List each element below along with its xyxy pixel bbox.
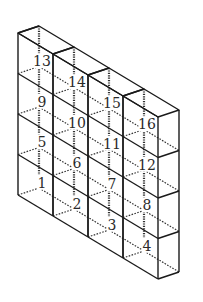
front-horizontal-edge: [53, 135, 88, 156]
cube-number-label: 14: [68, 74, 86, 90]
cube-number-label: 2: [73, 196, 82, 212]
front-horizontal-edge: [88, 75, 123, 96]
cube-number-label: 3: [108, 217, 117, 233]
hidden-horizontal-edge: [144, 130, 179, 151]
cube-number-label: 4: [143, 238, 152, 254]
right-row-depth-edge: [158, 191, 179, 198]
front-horizontal-edge: [18, 114, 53, 135]
front-horizontal-edge: [88, 197, 123, 218]
cube-number-label: 10: [68, 115, 86, 131]
hidden-horizontal-edge: [109, 230, 144, 251]
cube-number-label: 5: [38, 134, 47, 150]
front-horizontal-edge: [123, 258, 158, 279]
front-horizontal-edge: [53, 54, 88, 75]
cube-number-label: 16: [138, 116, 156, 132]
hidden-depth-edge: [88, 230, 109, 237]
hidden-depth-edge: [53, 169, 74, 176]
cube-number-label: 6: [73, 155, 82, 171]
hidden-depth-edge: [18, 107, 39, 114]
front-horizontal-edge: [53, 176, 88, 197]
front-horizontal-edge: [88, 237, 123, 258]
right-row-depth-edge: [158, 151, 179, 158]
cube-wall-diagram: 13141516910111256781234: [0, 0, 203, 302]
cube-wall-svg: 13141516910111256781234: [0, 0, 203, 302]
front-horizontal-edge: [18, 74, 53, 95]
front-horizontal-edge: [53, 216, 88, 237]
front-horizontal-edge: [88, 156, 123, 177]
cube-number-label: 12: [138, 157, 156, 173]
hidden-depth-edge: [53, 209, 74, 216]
front-horizontal-edge: [18, 155, 53, 176]
hidden-depth-edge: [88, 190, 109, 197]
left-top-edge: [18, 26, 39, 33]
cube-number-label: 9: [38, 94, 47, 110]
hidden-depth-edge: [123, 211, 144, 218]
front-horizontal-edge: [123, 96, 158, 117]
hidden-horizontal-edge: [39, 148, 74, 169]
front-horizontal-edge: [123, 218, 158, 239]
hidden-depth-edge: [18, 188, 39, 195]
hidden-depth-edge: [18, 148, 39, 155]
right-row-depth-edge: [158, 232, 179, 239]
hidden-horizontal-edge: [109, 190, 144, 211]
hidden-depth-edge: [123, 251, 144, 258]
hidden-horizontal-edge: [144, 251, 179, 272]
front-horizontal-edge: [88, 116, 123, 137]
hidden-horizontal-edge: [74, 169, 109, 190]
front-horizontal-edge: [123, 177, 158, 198]
hidden-horizontal-edge: [144, 170, 179, 191]
cube-number-label: 11: [103, 136, 121, 152]
right-bottom-depth-edge: [158, 272, 179, 279]
cube-number-label: 15: [103, 95, 121, 111]
hidden-horizontal-edge: [74, 209, 109, 230]
front-horizontal-edge: [53, 95, 88, 116]
cube-number-label: 13: [33, 53, 51, 69]
front-horizontal-edge: [18, 33, 53, 54]
cube-number-label: 8: [143, 197, 152, 213]
cube-number-label: 7: [108, 176, 117, 192]
hidden-horizontal-edge: [39, 188, 74, 209]
hidden-horizontal-edge: [144, 211, 179, 232]
front-horizontal-edge: [123, 137, 158, 158]
front-horizontal-edge: [18, 195, 53, 216]
cube-number-label: 1: [38, 175, 47, 191]
